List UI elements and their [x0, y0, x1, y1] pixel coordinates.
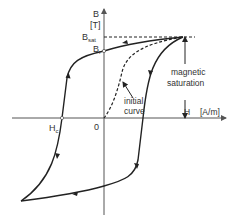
h-axis-label: H [184, 107, 190, 117]
direction-arrow-icon [148, 70, 153, 76]
b-axis-label: B [93, 9, 99, 19]
h-axis-unit: [A/m] [200, 107, 220, 117]
initial-curve-annotation-line2: curve [124, 106, 145, 116]
b-r-point [102, 49, 105, 52]
direction-arrow-icon [55, 153, 60, 159]
direction-arrow-icon [122, 40, 128, 44]
h-c-point [60, 116, 63, 119]
b-axis-unit: [T] [90, 20, 101, 30]
h-c-label: Hc [49, 123, 59, 134]
b-r-label: Br [93, 44, 101, 55]
hysteresis-diagram: B [T] H [A/m] 0 Bsat Br Hc magnetic satu… [0, 0, 238, 223]
saturation-annotation-line1: magnetic [171, 67, 206, 77]
origin-label: 0 [94, 122, 99, 132]
b-sat-label: Bsat [82, 32, 96, 43]
direction-arrow-icon [66, 72, 72, 79]
saturation-annotation-line2: saturation [167, 78, 205, 88]
initial-curve-annotation-line1: initial [124, 96, 143, 106]
hysteresis-upper-branch [21, 37, 183, 201]
